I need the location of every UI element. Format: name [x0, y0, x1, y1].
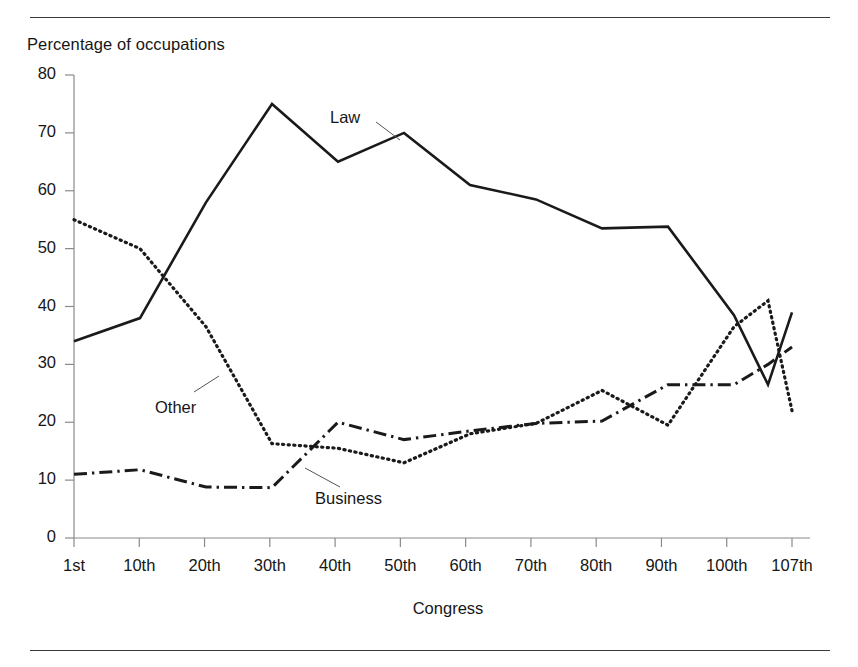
leader-line-law	[376, 122, 400, 140]
leader-line-business	[305, 468, 340, 487]
x-tick-label-50th: 50th	[384, 556, 416, 575]
x-tick-label-90th: 90th	[645, 556, 677, 575]
x-axis-title: Congress	[0, 599, 858, 618]
y-tick-label-10: 10	[16, 469, 56, 488]
series-line-law	[74, 104, 792, 385]
x-tick-label-60th: 60th	[450, 556, 482, 575]
series-label-other: Other	[155, 398, 196, 417]
chart-series-paths	[74, 104, 792, 488]
y-tick-label-40: 40	[16, 296, 56, 315]
plot-area: 01020304050607080 1st10th20th30th40th50t…	[0, 0, 858, 667]
x-axis-title-text: Congress	[375, 599, 484, 617]
series-leader-lines	[194, 122, 400, 487]
x-tick-label-80th: 80th	[580, 556, 612, 575]
x-tick-label-20th: 20th	[188, 556, 220, 575]
x-tick-label-107th: 107th	[771, 556, 812, 575]
x-tick-label-30th: 30th	[254, 556, 286, 575]
y-tick-label-20: 20	[16, 411, 56, 430]
y-tick-label-80: 80	[16, 64, 56, 83]
x-tick-label-100th: 100th	[706, 556, 747, 575]
series-line-business	[74, 347, 792, 488]
y-tick-label-0: 0	[16, 527, 56, 546]
leader-line-other	[194, 376, 219, 392]
figure-container: Percentage of occupations 01020304050607…	[0, 0, 858, 667]
y-tick-label-30: 30	[16, 353, 56, 372]
chart-axes	[65, 75, 810, 547]
y-tick-label-60: 60	[16, 180, 56, 199]
x-tick-label-10th: 10th	[123, 556, 155, 575]
series-label-law: Law	[330, 108, 360, 127]
y-tick-label-70: 70	[16, 122, 56, 141]
x-tick-label-40th: 40th	[319, 556, 351, 575]
x-tick-label-1st: 1st	[63, 556, 85, 575]
series-line-other	[74, 220, 792, 463]
x-tick-label-70th: 70th	[515, 556, 547, 575]
series-label-business: Business	[315, 489, 382, 508]
y-tick-label-50: 50	[16, 238, 56, 257]
